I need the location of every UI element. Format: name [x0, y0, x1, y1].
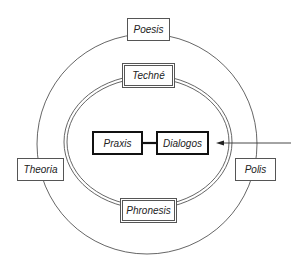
node-label: Theoria — [24, 164, 58, 175]
node-theoria: Theoria — [17, 158, 64, 181]
node-label: Dialogos — [163, 138, 202, 149]
node-label: Poesis — [133, 24, 163, 35]
node-label: Praxis — [104, 138, 132, 149]
node-dialogos: Dialogos — [156, 131, 209, 155]
node-label: Phronesis — [126, 205, 170, 216]
node-phronesis: Phronesis — [120, 198, 177, 223]
node-techne: Techné — [122, 63, 175, 88]
arrow-head-icon — [216, 141, 224, 146]
node-label: Techné — [132, 70, 164, 81]
node-polis: Polis — [235, 158, 276, 181]
node-poesis: Poesis — [127, 18, 170, 41]
node-praxis: Praxis — [92, 131, 143, 155]
node-label: Polis — [245, 164, 267, 175]
